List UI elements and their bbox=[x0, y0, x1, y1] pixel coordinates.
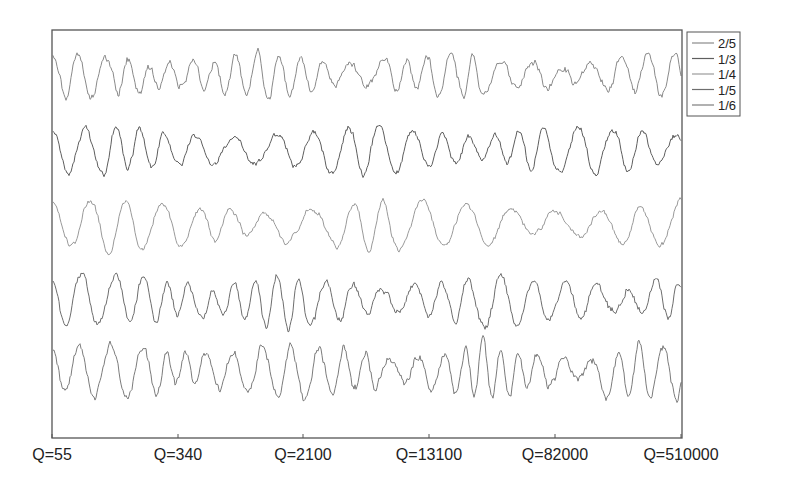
trace-1-3 bbox=[53, 125, 681, 177]
legend: 2/51/31/41/51/6 bbox=[687, 32, 740, 116]
plot-frame bbox=[52, 30, 682, 438]
x-tick-label: Q=2100 bbox=[274, 446, 331, 463]
line-chart-canvas: Q=55Q=340Q=2100Q=13100Q=82000Q=510000 2/… bbox=[0, 0, 789, 481]
x-tick-label: Q=55 bbox=[32, 446, 72, 463]
trace-1-6 bbox=[53, 336, 681, 403]
legend-label: 1/6 bbox=[718, 98, 736, 113]
legend-label: 1/5 bbox=[718, 83, 736, 98]
trace-2-5 bbox=[53, 48, 681, 100]
trace-1-4 bbox=[53, 198, 681, 255]
legend-label: 1/3 bbox=[718, 52, 736, 67]
chart: Q=55Q=340Q=2100Q=13100Q=82000Q=510000 2/… bbox=[0, 0, 789, 481]
x-tick-label: Q=510000 bbox=[643, 446, 718, 463]
x-tick-label: Q=340 bbox=[154, 446, 203, 463]
x-tick-label: Q=82000 bbox=[522, 446, 588, 463]
legend-label: 2/5 bbox=[718, 36, 736, 51]
x-tick-label: Q=13100 bbox=[396, 446, 462, 463]
legend-label: 1/4 bbox=[718, 67, 736, 82]
plot-traces bbox=[53, 48, 681, 402]
trace-1-5 bbox=[53, 273, 681, 332]
